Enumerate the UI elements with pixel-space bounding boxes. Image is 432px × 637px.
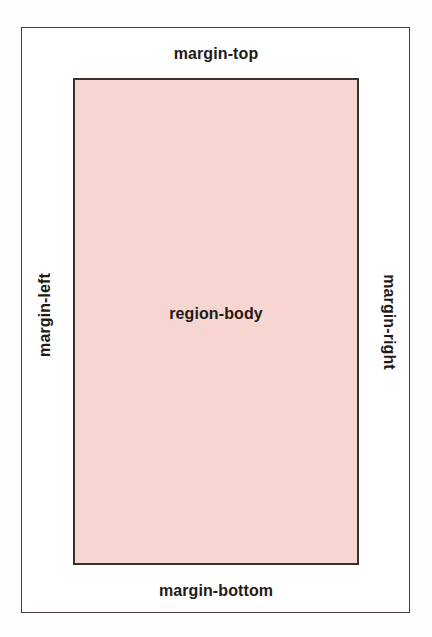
region-body-box: region-body bbox=[73, 78, 359, 565]
margin-left-label: margin-left bbox=[36, 273, 54, 357]
region-body-label: region-body bbox=[75, 305, 357, 323]
diagram-canvas: margin-top margin-left margin-right marg… bbox=[0, 0, 432, 637]
margin-bottom-label: margin-bottom bbox=[73, 582, 359, 600]
margin-top-label: margin-top bbox=[73, 45, 359, 63]
margin-right-label: margin-right bbox=[380, 274, 398, 369]
